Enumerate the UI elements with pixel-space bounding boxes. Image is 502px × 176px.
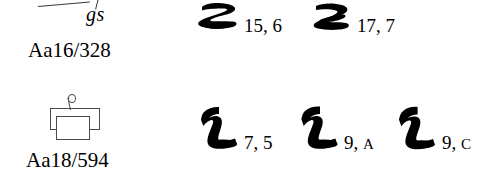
hieratic-glyph-z-flat-icon [196,2,240,34]
variant-reference: 9, C [442,133,471,152]
sign-entry-row: Aa18/594 7, 5 9, [0,88,502,176]
variant-reference-suffix: 5 [263,132,273,153]
hieratic-glyph-hooked-l-icon [300,106,340,152]
hieroglyph-aa18-icon [48,96,106,140]
variant-reference-number: 7, [244,132,258,153]
sign-block-aa16: gs Aa16/328 [0,0,190,88]
variant-reference: 7, 5 [244,133,273,152]
hieratic-glyph-z-angular-icon [311,2,353,34]
palaeography-table: gs Aa16/328 15, 6 17, 7 [0,0,502,176]
variant-reference: 17, 7 [357,16,395,35]
sign-code-label: Aa18/594 [26,150,109,171]
variant-reference-number: 9, [442,132,456,153]
variant-reference: 15, 6 [244,16,282,35]
variant-reference: 9, A [344,133,374,152]
variant-reference-suffix: A [363,136,374,152]
transliteration-label: gs [86,4,105,24]
variant-reference-number: 9, [344,132,358,153]
hieratic-glyph-hooked-l-icon [200,106,240,152]
hieratic-glyph-hooked-l-icon [398,106,438,152]
sign-entry-row: gs Aa16/328 15, 6 17, 7 [0,0,502,88]
sign-block-aa18: Aa18/594 [0,88,190,176]
variant-reference-suffix: C [461,136,471,152]
sign-code-label: Aa16/328 [28,40,111,61]
